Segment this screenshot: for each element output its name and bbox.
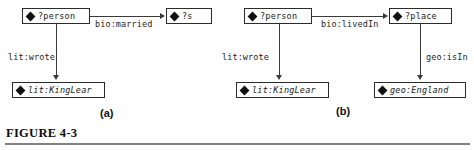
edge-a-wrote-line: [56, 24, 57, 76]
node-b-person: ?person: [244, 8, 312, 24]
figure-4-3: ?person ?s lit:KingLear bio:married lit:…: [0, 0, 474, 150]
subfigure-a-caption: (a): [100, 107, 113, 119]
arrow-down-icon: [417, 75, 423, 80]
node-a-person-label: ?person: [38, 12, 75, 21]
node-diamond-icon: [248, 11, 258, 21]
caption-divider: [5, 143, 470, 145]
edge-b-livedin-label: bio:livedIn: [321, 20, 378, 29]
node-diamond-icon: [393, 11, 403, 21]
node-a-s-label: ?s: [182, 12, 193, 21]
node-b-kinglear: lit:KingLear: [236, 82, 329, 98]
node-b-england: geo:England: [374, 82, 466, 98]
arrow-right-icon: [383, 13, 388, 19]
edge-b-isin-label: geo:isIn: [426, 53, 468, 62]
edge-a-wrote-label: lit:wrote: [8, 53, 55, 62]
edge-b-wrote-line: [279, 24, 280, 76]
edge-a-married-line: [90, 16, 161, 17]
node-diamond-icon: [378, 85, 388, 95]
edge-b-wrote-label: lit:wrote: [222, 53, 269, 62]
arrow-down-icon: [276, 75, 282, 80]
edge-a-married-label: bio:married: [95, 20, 152, 29]
node-b-england-label: geo:England: [390, 86, 449, 95]
node-diamond-icon: [240, 85, 250, 95]
subfigure-b-caption: (b): [336, 105, 350, 117]
node-a-kinglear: lit:KingLear: [12, 82, 105, 98]
node-b-place-label: ?place: [405, 12, 437, 21]
node-a-kinglear-label: lit:KingLear: [28, 86, 92, 95]
node-diamond-icon: [26, 11, 36, 21]
edge-b-isin-line: [420, 24, 421, 76]
figure-caption: FIGURE 4-3: [6, 126, 77, 141]
arrow-down-icon: [53, 75, 59, 80]
node-a-s: ?s: [166, 8, 212, 24]
node-b-kinglear-label: lit:KingLear: [252, 86, 316, 95]
node-a-person: ?person: [22, 8, 90, 24]
node-diamond-icon: [170, 11, 180, 21]
node-diamond-icon: [16, 85, 26, 95]
edge-b-livedin-line: [312, 16, 384, 17]
node-b-person-label: ?person: [260, 12, 297, 21]
node-b-place: ?place: [389, 8, 452, 24]
arrow-right-icon: [160, 13, 165, 19]
